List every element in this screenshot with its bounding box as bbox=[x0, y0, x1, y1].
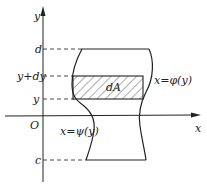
level-d-label: d bbox=[35, 43, 42, 56]
region-boundary bbox=[72, 49, 152, 160]
x-axis bbox=[5, 113, 201, 118]
x-axis-arrow-icon bbox=[191, 113, 201, 118]
dashed-guides bbox=[43, 49, 86, 160]
origin-label: O bbox=[30, 119, 39, 132]
right-curve-phi bbox=[139, 49, 152, 160]
level-y-plus-dy-label: y+dy bbox=[16, 70, 46, 83]
left-curve-psi bbox=[72, 49, 94, 160]
y-axis-arrow-icon bbox=[41, 6, 46, 16]
curve-psi-label: x=ψ(y) bbox=[60, 125, 99, 138]
level-c-label: c bbox=[35, 154, 41, 167]
x-axis-label: x bbox=[195, 122, 202, 135]
diagram-canvas: y x O d y+dy y c dA x=φ(y) x=ψ(y) bbox=[0, 0, 207, 188]
y-axis-label: y bbox=[33, 10, 41, 23]
level-y-label: y bbox=[32, 93, 40, 106]
curve-phi-label: x=φ(y) bbox=[154, 74, 192, 87]
y-axis bbox=[41, 6, 46, 182]
strip-label-dA: dA bbox=[106, 81, 121, 94]
